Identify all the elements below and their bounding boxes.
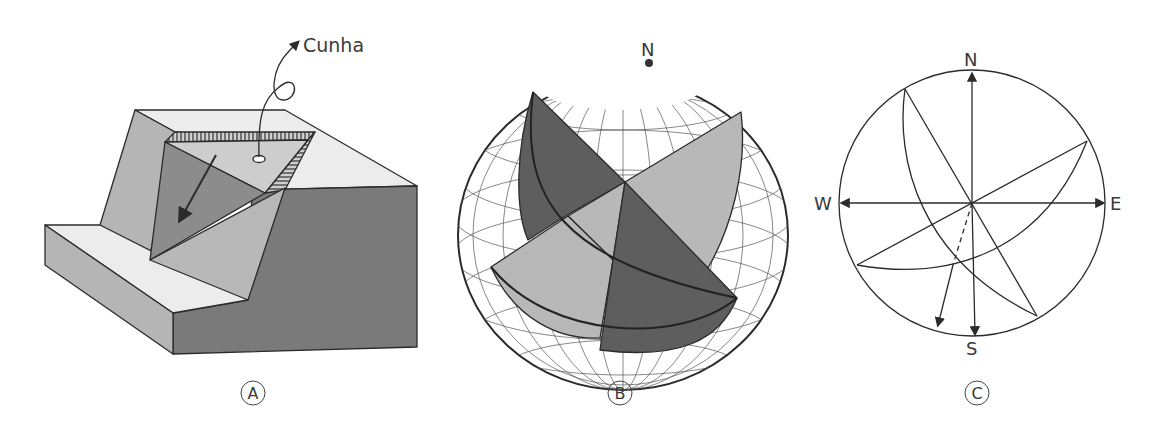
compass-north: N (964, 49, 977, 70)
cunha-label: Cunha (303, 34, 364, 56)
compass-south: S (966, 338, 977, 359)
north-label-b: N (641, 39, 654, 60)
svg-text:B: B (615, 384, 626, 403)
intersection-plunge-arrow (938, 265, 953, 325)
south-axis (972, 203, 975, 334)
north-pole-dot (645, 59, 653, 67)
svg-text:C: C (971, 384, 982, 403)
panel-label-b: B (608, 381, 632, 405)
panel-c-stereographic-projection (839, 70, 1105, 336)
panel-label-c: C (965, 381, 989, 405)
panel-b-stereonet-sphere (453, 59, 793, 400)
compass-west: W (814, 193, 832, 214)
figure-canvas: Cunha N (0, 0, 1163, 433)
svg-text:A: A (248, 384, 259, 403)
panel-label-a: A (241, 381, 265, 405)
compass-east: E (1110, 193, 1121, 214)
sphere-top-cap (541, 66, 701, 110)
panel-a-block-diagram (45, 42, 417, 354)
